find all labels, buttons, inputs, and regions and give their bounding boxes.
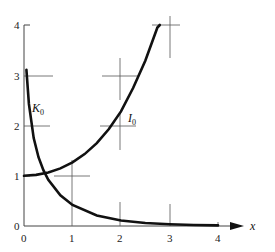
x-tick-4: 4 xyxy=(215,232,221,244)
y-tick-4: 4 xyxy=(14,19,20,31)
y-tick-0: 0 xyxy=(14,220,20,232)
curve-i0 xyxy=(24,25,160,176)
curve-label-k0: K0 xyxy=(31,101,44,117)
x-tick-1: 1 xyxy=(69,232,75,244)
bessel-function-chart: 0 1 2 3 4 0 1 2 3 4 x K0 I0 xyxy=(0,0,275,252)
x-axis-label: x xyxy=(249,219,256,233)
curve-k0 xyxy=(26,70,218,226)
y-tick-1: 1 xyxy=(14,170,20,182)
x-tick-0: 0 xyxy=(21,232,27,244)
x-tick-3: 3 xyxy=(167,232,173,244)
x-tick-2: 2 xyxy=(117,232,123,244)
curve-label-i0: I0 xyxy=(127,111,136,127)
x-axis-arrow-icon xyxy=(230,222,244,230)
y-tick-2: 2 xyxy=(14,120,20,132)
y-tick-3: 3 xyxy=(14,70,20,82)
